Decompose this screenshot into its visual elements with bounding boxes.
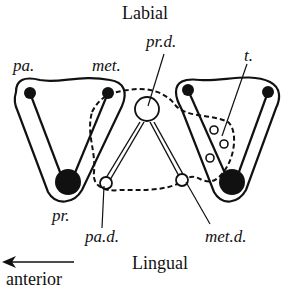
dashed-outline bbox=[90, 89, 234, 190]
metacone-cusp bbox=[102, 87, 114, 99]
protocone-deuterocone-label: pr.d. bbox=[146, 33, 176, 50]
lingual-label: Lingual bbox=[132, 254, 188, 272]
paracone-deuterocone-label: pa.d. bbox=[85, 228, 119, 245]
paracone-cusp bbox=[24, 87, 36, 99]
tooth-cusp-diagram bbox=[0, 0, 284, 292]
metacone-label: met. bbox=[92, 57, 121, 74]
protocone-label: pr. bbox=[52, 207, 69, 224]
metacone-deuterocone bbox=[176, 174, 188, 186]
anterior-label: anterior bbox=[6, 270, 62, 288]
protocone-deuterocone bbox=[135, 97, 159, 121]
anterior-arrow-icon bbox=[2, 256, 74, 268]
paracone-label: pa. bbox=[13, 57, 34, 74]
talon-label: t. bbox=[244, 47, 253, 64]
talon-cuspule bbox=[210, 126, 218, 134]
labial-label: Labial bbox=[122, 4, 168, 22]
paracone-deuterocone bbox=[100, 177, 112, 189]
protocone-cusp bbox=[55, 169, 81, 195]
metacone-deuterocone-label: met.d. bbox=[205, 228, 247, 245]
